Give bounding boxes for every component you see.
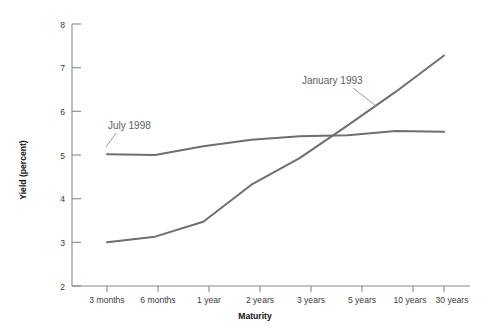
x-tick-label: 30 years: [436, 295, 469, 305]
x-axis-title: Maturity: [238, 311, 272, 321]
y-tick-label: 3: [60, 238, 65, 248]
x-tick-label: 2 years: [246, 295, 274, 305]
leader-line-january-1993: [353, 88, 376, 106]
annotation-label-january-1993: January 1993: [302, 75, 363, 86]
x-axis-ticks: [107, 286, 444, 292]
leader-line-july-1998: [106, 133, 116, 147]
y-tick-label: 5: [60, 151, 65, 161]
yield-curve-chart: 8 7 6 5 4 3 2 3 months 6 months 1 year 2…: [0, 0, 499, 328]
series-line-january-1993: [107, 55, 444, 242]
annotation-january-1993: January 1993: [302, 75, 376, 106]
chart-canvas: 8 7 6 5 4 3 2 3 months 6 months 1 year 2…: [0, 0, 499, 328]
annotation-label-july-1998: July 1998: [108, 120, 151, 131]
x-tick-label: 3 months: [89, 295, 124, 305]
y-axis-title: Yield (percent): [18, 140, 28, 200]
x-tick-label: 1 year: [197, 295, 221, 305]
y-tick-label: 2: [60, 282, 65, 292]
y-tick-label: 8: [60, 20, 65, 30]
x-tick-label: 6 months: [140, 295, 175, 305]
annotation-july-1998: July 1998: [106, 120, 151, 147]
x-axis-tick-labels: 3 months 6 months 1 year 2 years 3 years…: [89, 295, 468, 305]
y-tick-label: 4: [60, 194, 65, 204]
x-tick-label: 3 years: [297, 295, 325, 305]
y-axis-tick-labels: 8 7 6 5 4 3 2: [60, 20, 65, 292]
x-tick-label: 5 years: [348, 295, 376, 305]
y-tick-label: 6: [60, 107, 65, 117]
x-tick-label: 10 years: [394, 295, 427, 305]
series-line-july-1998: [107, 131, 444, 155]
y-axis-ticks: [72, 24, 81, 286]
y-tick-label: 7: [60, 63, 65, 73]
